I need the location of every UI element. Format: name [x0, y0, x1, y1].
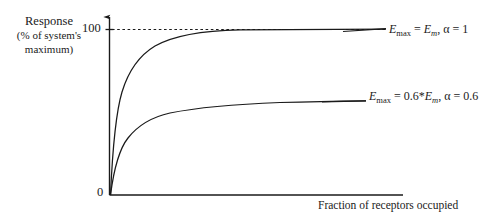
annotation-partial-var-e2: E — [425, 89, 432, 103]
y-axis-title: Response (% of system's maximum) — [6, 14, 92, 56]
annotation-partial-coefficient: 0.6* — [404, 89, 425, 103]
annotation-partial-agonist: Emax = 0.6*Em, α = 0.6 — [369, 89, 478, 104]
y-axis-title-line3: maximum) — [6, 42, 92, 56]
annotation-full-alpha-value: 1 — [462, 22, 468, 36]
curve-partial-agonist — [111, 101, 367, 195]
dose-response-figure: Response (% of system's maximum) Fractio… — [0, 0, 495, 221]
annotation-full-agonist: Emax = Em, α = 1 — [389, 22, 468, 37]
y-tick-label-100: 100 — [82, 21, 101, 36]
y-axis-title-line1: Response — [6, 14, 92, 28]
annotation-full-equals2: = — [450, 22, 463, 36]
annotation-full-equals1: = — [411, 22, 424, 36]
origin-label-0: 0 — [97, 185, 103, 200]
curve-full-agonist — [111, 29, 387, 195]
annotation-partial-alpha-value: 0.6 — [463, 89, 478, 103]
x-axis-title: Fraction of receptors occupied — [318, 199, 458, 211]
annotation-full-sub-m: m — [431, 28, 437, 38]
annotation-full-var-e2: E — [424, 22, 431, 36]
annotation-partial-sub-m: m — [432, 95, 438, 105]
y-axis-title-line2: (% of system's — [6, 28, 92, 42]
annotation-partial-equals1: = — [391, 89, 404, 103]
annotation-partial-sub-max: max — [376, 95, 391, 105]
annotation-full-sub-max: max — [396, 28, 411, 38]
annotation-partial-equals2: = — [451, 89, 464, 103]
